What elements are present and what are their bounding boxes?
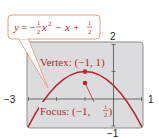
equation-middle: − x + <box>52 21 83 33</box>
equation-x2: x <box>41 21 47 33</box>
ymin-label: −1 <box>107 128 119 139</box>
equation-c-den: 2 <box>88 28 91 35</box>
focus-label-close: ) <box>109 105 113 118</box>
equation-c-num: 1 <box>88 19 91 26</box>
focus-label: Focus: (−1, <box>40 105 90 118</box>
focus-label-open: (−1, <box>72 105 90 118</box>
focus-point <box>83 81 88 86</box>
parabola-figure: Vertex: (−1, 1) Focus: (−1, 1 2 ) −3 1 2… <box>0 0 159 139</box>
focus-frac-den: 2 <box>104 111 107 118</box>
xmax-label: 1 <box>148 94 154 105</box>
focus-label-prefix: Focus: <box>40 105 72 117</box>
vertex-label: Vertex: (−1, 1) <box>40 56 105 69</box>
xmin-label: −3 <box>4 94 16 105</box>
equation-minus: − <box>29 21 35 33</box>
focus-frac-num: 1 <box>104 103 107 110</box>
equation-frac-num: 1 <box>37 19 40 26</box>
equation-eq: = <box>21 21 27 33</box>
ymax-label: 2 <box>110 31 116 42</box>
equation-lhs: y <box>13 21 19 33</box>
vertex-point <box>83 69 88 74</box>
equation-frac-den: 2 <box>37 28 40 35</box>
